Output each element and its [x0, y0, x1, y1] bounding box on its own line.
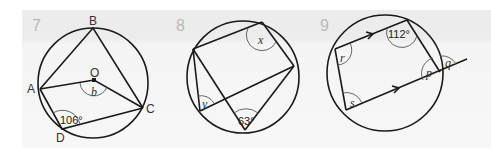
geometry-figures: 7 B A O C D b 106° 8	[0, 0, 491, 159]
angle-q-label: q	[445, 56, 451, 70]
vertex-c-label: C	[146, 102, 155, 116]
angle-p-label: p	[425, 66, 432, 80]
problem-9-number: 9	[320, 17, 329, 34]
vertex-d-label: D	[56, 131, 65, 145]
angle-112-label: 112°	[388, 28, 410, 40]
angle-b-label: b	[91, 85, 97, 99]
problem-8-diagram: 8 x y 63°	[176, 17, 299, 133]
vertex-a-label: A	[27, 82, 35, 96]
chord-diagonal-right	[200, 66, 294, 111]
problem-7-number: 7	[32, 17, 41, 34]
chord-top	[193, 22, 262, 49]
problem-8-number: 8	[176, 17, 185, 34]
chord-right	[407, 20, 440, 72]
angle-y-label: y	[201, 97, 208, 111]
angle-s-label: s	[350, 96, 355, 110]
problem-9-diagram: 9 112° r s p q	[320, 15, 467, 131]
problem-7-diagram: 7 B A O C D b 106°	[27, 14, 155, 145]
angle-63-label: 63°	[238, 115, 255, 127]
angle-63-arc	[234, 109, 258, 113]
center-o-label: O	[90, 66, 99, 80]
worksheet: 7 B A O C D b 106° 8	[0, 0, 491, 159]
angle-x-label: x	[257, 33, 264, 47]
angle-r-label: r	[340, 51, 345, 65]
angle-106-label: 106°	[60, 114, 83, 126]
vertex-b-label: B	[89, 14, 97, 28]
